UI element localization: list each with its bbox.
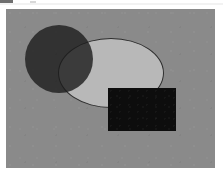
dark-circle-shape — [25, 25, 93, 93]
black-rectangle-shape — [108, 88, 176, 131]
scan-artifact-strip — [0, 3, 223, 5]
figure-stage: Overlapping shapes composition Dark gray… — [0, 0, 223, 174]
image-canvas — [6, 9, 215, 168]
